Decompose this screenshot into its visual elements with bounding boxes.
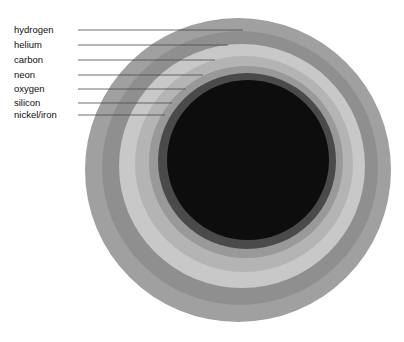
label-carbon: carbon (14, 54, 43, 65)
label-silicon: silicon (14, 97, 40, 108)
shell-group (85, 18, 391, 322)
shell-nickel-iron (167, 80, 329, 240)
label-helium: helium (14, 39, 42, 50)
stellar-shell-diagram: hydrogen helium carbon neon oxygen silic… (0, 0, 404, 342)
label-oxygen: oxygen (14, 83, 45, 94)
label-nickel-iron: nickel/iron (14, 109, 57, 120)
label-hydrogen: hydrogen (14, 24, 54, 35)
label-neon: neon (14, 69, 35, 80)
